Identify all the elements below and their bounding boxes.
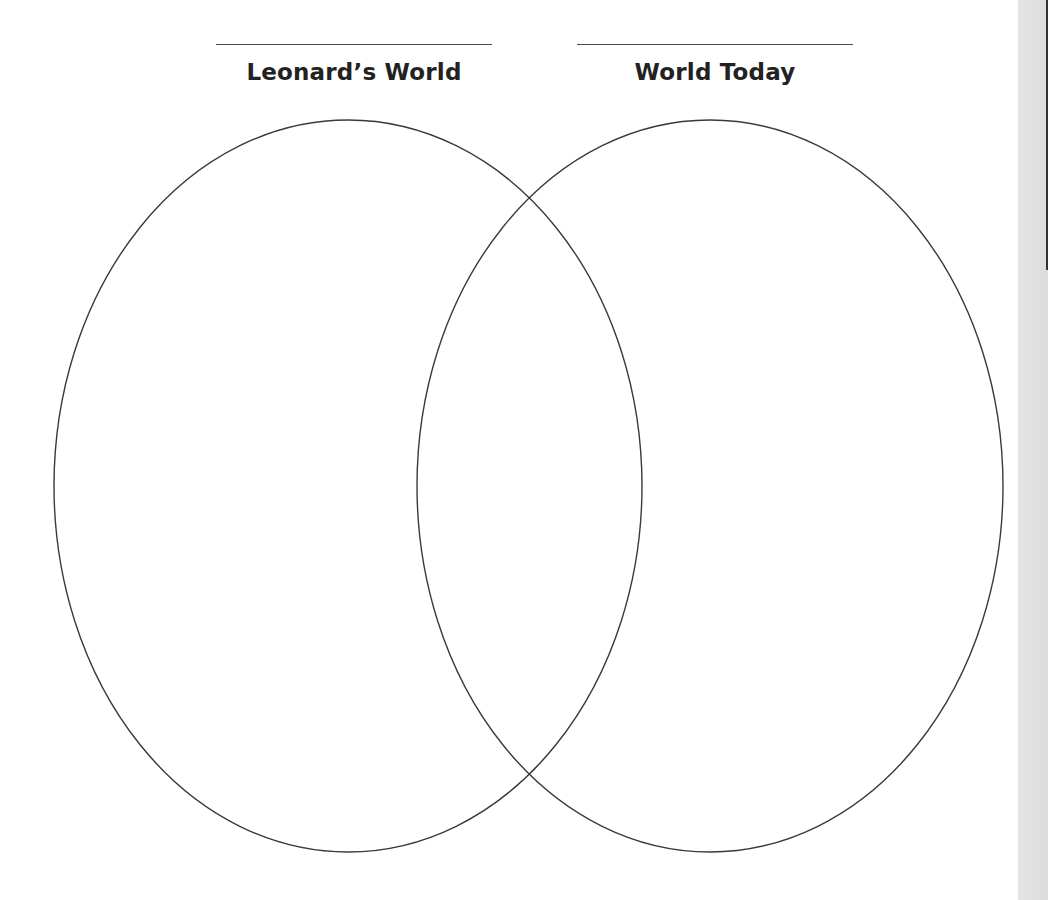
venn-diagram-page: Leonard’s World World Today — [0, 0, 1048, 900]
venn-ellipses — [0, 0, 1048, 900]
ellipse-leonards-world[interactable] — [54, 120, 642, 852]
ellipse-world-today[interactable] — [417, 120, 1003, 852]
page-edge-strip — [1018, 0, 1048, 900]
